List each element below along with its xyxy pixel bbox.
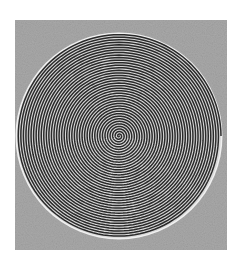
spiral-disc (0, 0, 239, 267)
